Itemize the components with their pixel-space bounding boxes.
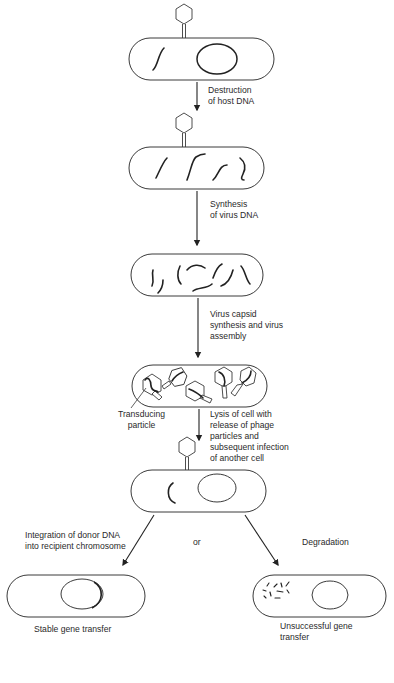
- label-degradation: Degradation: [302, 537, 349, 548]
- phage-particle-icon: [162, 365, 189, 389]
- label-unsuccessful-gene-transfer: Unsuccessful gene transfer: [280, 621, 353, 643]
- label-destruction-host-dna: Destruction of host DNA: [208, 85, 254, 107]
- cell-virus-dna: [131, 254, 263, 296]
- label-synthesis-virus-dna: Synthesis of virus DNA: [210, 199, 258, 221]
- transduction-diagram: [0, 0, 394, 683]
- arrow-integration: [123, 515, 154, 565]
- arrow-degradation: [245, 515, 278, 565]
- phage-particle-icon: [231, 367, 256, 396]
- cell-phage-assembly: [131, 365, 267, 408]
- cell-host-infected: [129, 4, 274, 80]
- degraded-dna-fragments: [263, 582, 289, 598]
- donor-dna-fragment: [168, 483, 175, 503]
- cell-stable-transfer: [7, 575, 145, 617]
- label-stable-gene-transfer: Stable gene transfer: [34, 624, 111, 635]
- phage-particle-icon: [215, 367, 232, 398]
- phage-icon: [176, 4, 192, 38]
- phage-icon: [176, 113, 192, 147]
- phage-particle-icon: [186, 381, 212, 403]
- phage-icon: [179, 437, 195, 470]
- transducing-particle-icon: [143, 374, 162, 400]
- host-chromosome: [197, 44, 237, 74]
- host-dna-fragment: [153, 48, 164, 70]
- label-transducing-particle: Transducing particle: [118, 409, 165, 431]
- cell-host-dna-fragmented: [129, 113, 264, 189]
- label-or: or: [193, 537, 201, 548]
- label-integration: Integration of donor DNA into recipient …: [25, 530, 126, 552]
- cell-unsuccessful-transfer: [253, 575, 386, 617]
- label-lysis-infection: Lysis of cell with release of phage part…: [210, 409, 289, 464]
- recipient-chromosome: [198, 474, 236, 502]
- label-capsid-assembly: Virus capsid synthesis and virus assembl…: [210, 309, 283, 342]
